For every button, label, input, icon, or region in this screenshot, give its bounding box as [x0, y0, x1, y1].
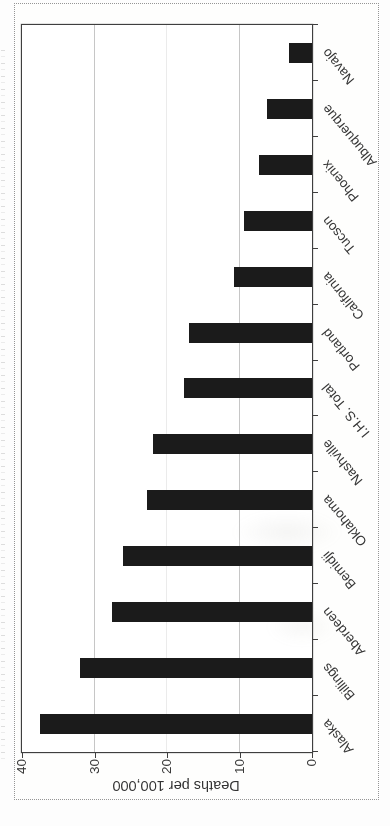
gridline-30 — [94, 25, 95, 752]
y-tick-mark-40 — [22, 752, 23, 758]
bar-nashville — [153, 434, 312, 454]
bar-phoenix — [259, 155, 312, 175]
plot-area — [21, 24, 313, 753]
category-tick-mark — [313, 248, 318, 249]
gridline-20 — [166, 25, 167, 752]
bar-aberdeen — [112, 602, 312, 622]
bar-i-h-s-total — [184, 379, 312, 399]
bar-albuquerque — [267, 99, 312, 119]
category-tick-mark — [313, 80, 318, 81]
category-tick-mark — [313, 360, 318, 361]
dotted-frame: Deaths per 100,000 010203040AlaskaBillin… — [14, 3, 379, 800]
category-tick-mark — [313, 415, 318, 416]
y-tick-label-20: 20 — [159, 759, 175, 791]
bar-portland — [189, 323, 312, 343]
bar-bemidji — [123, 546, 312, 566]
bar-chart: Deaths per 100,000 010203040AlaskaBillin… — [15, 4, 378, 799]
bar-tucson — [244, 211, 312, 231]
y-tick-mark-10 — [240, 752, 241, 758]
y-tick-label-40: 40 — [14, 759, 30, 791]
y-tick-label-10: 10 — [232, 759, 248, 791]
bar-alaska — [40, 714, 312, 734]
y-tick-label-0: 0 — [304, 759, 320, 791]
y-tick-mark-30 — [95, 752, 96, 758]
y-tick-label-30: 30 — [87, 759, 103, 791]
scanned-page: Deaths per 100,000 010203040AlaskaBillin… — [0, 0, 390, 826]
category-tick-mark — [313, 751, 318, 752]
y-tick-mark-0 — [312, 752, 313, 758]
bar-navajo — [289, 43, 312, 63]
category-tick-mark — [313, 639, 318, 640]
category-tick-mark — [313, 695, 318, 696]
category-tick-mark — [313, 471, 318, 472]
rotated-chart-container: Deaths per 100,000 010203040AlaskaBillin… — [15, 4, 378, 799]
category-tick-mark — [313, 24, 318, 25]
y-tick-mark-20 — [167, 752, 168, 758]
category-tick-mark — [313, 136, 318, 137]
scan-edge-artifact — [1, 50, 5, 760]
category-tick-mark — [313, 583, 318, 584]
bar-oklahoma — [147, 490, 312, 510]
category-tick-mark — [313, 527, 318, 528]
bar-california — [234, 267, 312, 287]
category-tick-mark — [313, 192, 318, 193]
category-tick-mark — [313, 304, 318, 305]
bar-billings — [80, 658, 312, 678]
